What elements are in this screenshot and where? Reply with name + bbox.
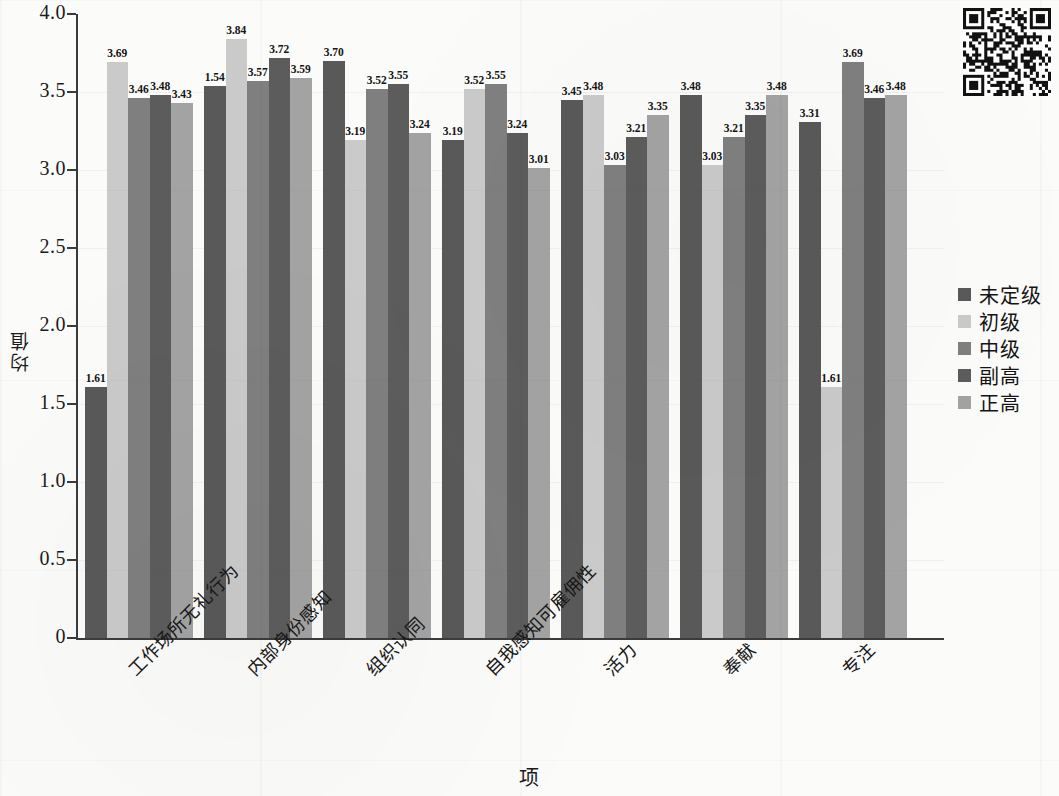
legend-item[interactable]: 未定级 [958, 283, 1042, 305]
legend-item[interactable]: 正高 [958, 391, 1042, 413]
bar[interactable]: 3.48 [583, 14, 605, 638]
bar-group: 3.453.483.033.213.35 [561, 14, 669, 638]
bar[interactable]: 3.19 [345, 14, 367, 638]
y-axis-tick [67, 13, 76, 15]
bar-rect [485, 84, 507, 638]
bar-rect [442, 140, 464, 638]
bar[interactable]: 1.61 [85, 14, 107, 638]
bar-rect [290, 78, 312, 638]
bar[interactable]: 3.84 [226, 14, 248, 638]
bar[interactable]: 3.03 [604, 14, 626, 638]
legend-item[interactable]: 初级 [958, 310, 1042, 332]
bar[interactable]: 3.69 [107, 14, 129, 638]
bar[interactable]: 3.35 [745, 14, 767, 638]
y-axis-tick [67, 247, 76, 249]
bar[interactable]: 3.59 [290, 14, 312, 638]
legend-label: 初级 [979, 307, 1021, 336]
bar[interactable]: 3.48 [680, 14, 702, 638]
bar[interactable]: 3.69 [842, 14, 864, 638]
bar-rect [507, 133, 529, 638]
bar[interactable]: 1.61 [821, 14, 843, 638]
bar-rect [799, 122, 821, 638]
bar-rect [366, 89, 388, 638]
x-axis-category-label: 奉献 [716, 636, 761, 681]
bar-rect [745, 115, 767, 638]
y-axis-tick-label: 2.0 [8, 313, 66, 336]
bar-rect [647, 115, 669, 638]
bar-value-label: 3.35 [648, 100, 668, 112]
bar[interactable]: 3.24 [409, 14, 431, 638]
bar[interactable]: 3.52 [464, 14, 486, 638]
plot-area: 00.51.01.52.02.53.03.54.0 1.613.693.463.… [76, 14, 944, 638]
legend-swatch-icon [958, 396, 971, 409]
bar-value-label: 3.19 [443, 125, 463, 137]
legend-swatch-icon [958, 288, 971, 301]
bar[interactable]: 3.03 [702, 14, 724, 638]
bar[interactable]: 3.46 [864, 14, 886, 638]
bar-rect [269, 58, 291, 638]
bar-value-label: 1.61 [821, 372, 841, 384]
bar[interactable]: 3.21 [626, 14, 648, 638]
bar-value-label: 3.46 [864, 83, 884, 95]
bar[interactable]: 3.57 [247, 14, 269, 638]
y-axis-tick [67, 559, 76, 561]
x-axis-category-label: 活力 [597, 636, 642, 681]
legend-item[interactable]: 中级 [958, 337, 1042, 359]
bar[interactable]: 3.55 [485, 14, 507, 638]
y-axis-title: 均值 [6, 330, 33, 372]
bar-value-label: 3.52 [367, 74, 387, 86]
bar[interactable]: 3.35 [647, 14, 669, 638]
bar-value-label: 1.61 [86, 372, 106, 384]
bar-rect [128, 98, 150, 638]
bar-value-label: 3.24 [507, 118, 527, 130]
bar[interactable]: 3.48 [150, 14, 172, 638]
bar-value-label: 3.03 [605, 150, 625, 162]
bar-value-label: 3.03 [702, 150, 722, 162]
y-axis-tick [67, 481, 76, 483]
bar[interactable]: 3.31 [799, 14, 821, 638]
bar-rect [583, 95, 605, 638]
y-axis-tick [67, 169, 76, 171]
x-axis-title: 项 [0, 762, 1059, 791]
bar-value-label: 3.21 [724, 122, 744, 134]
y-axis-tick-label: 3.0 [8, 157, 66, 180]
bar[interactable]: 3.01 [528, 14, 550, 638]
bar[interactable]: 3.45 [561, 14, 583, 638]
bar-group: 3.193.523.553.243.01 [442, 14, 550, 638]
bar-value-label: 3.46 [129, 83, 149, 95]
bar[interactable]: 3.48 [766, 14, 788, 638]
bar-value-label: 3.59 [291, 63, 311, 75]
legend-label: 中级 [979, 334, 1021, 363]
bar-rect [150, 95, 172, 638]
bar[interactable]: 3.43 [171, 14, 193, 638]
bar[interactable]: 3.55 [388, 14, 410, 638]
legend: 未定级初级中级副高正高 [958, 283, 1042, 413]
bar-value-label: 3.70 [324, 46, 344, 58]
bar-value-label: 3.48 [767, 80, 787, 92]
bar-value-label: 3.48 [583, 80, 603, 92]
bar[interactable]: 3.46 [128, 14, 150, 638]
legend-item[interactable]: 副高 [958, 364, 1042, 386]
bar-rect [323, 61, 345, 638]
bar[interactable]: 3.24 [507, 14, 529, 638]
bar[interactable]: 3.70 [323, 14, 345, 638]
bar[interactable]: 1.54 [204, 14, 226, 638]
legend-swatch-icon [958, 369, 971, 382]
bar[interactable]: 3.19 [442, 14, 464, 638]
bar[interactable]: 3.72 [269, 14, 291, 638]
bar-rect [604, 165, 626, 638]
y-axis-tick-label: 3.5 [8, 79, 66, 102]
bar[interactable]: 3.21 [723, 14, 745, 638]
bar-value-label: 3.57 [248, 66, 268, 78]
bar-rect [885, 95, 907, 638]
bar[interactable]: 3.48 [885, 14, 907, 638]
bar-value-label: 3.24 [410, 118, 430, 130]
bar[interactable]: 3.52 [366, 14, 388, 638]
y-axis-tick-label: 2.5 [8, 235, 66, 258]
bar-group: 3.311.613.693.463.48 [799, 14, 907, 638]
y-axis-tick-label: 0.5 [8, 547, 66, 570]
bar-value-label: 3.69 [107, 47, 127, 59]
bar-rect [409, 133, 431, 638]
bar-value-label: 3.21 [626, 122, 646, 134]
bar-rect [766, 95, 788, 638]
